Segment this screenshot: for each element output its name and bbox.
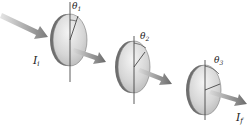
incident-intensity-label: Ii [32, 54, 40, 68]
polarizer-1 [50, 2, 87, 82]
final-intensity-label: If [235, 111, 244, 125]
theta-1-label: θ1 [72, 1, 81, 12]
polarizer-diagram: Ii θ1 θ2 θ3 If [0, 0, 252, 131]
theta-3-label: θ3 [214, 55, 223, 66]
polarizer-3 [186, 60, 221, 120]
theta-2-label: θ2 [140, 31, 149, 42]
incident-light-arrow [0, 13, 48, 39]
